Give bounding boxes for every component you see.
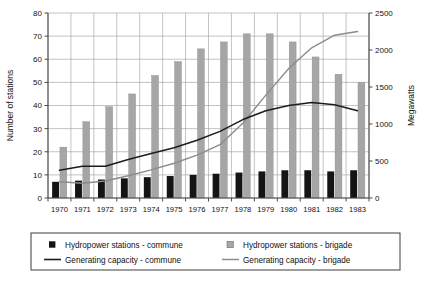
right-tick-label-2500: 2500 <box>375 9 393 18</box>
bar-commune-1980 <box>281 170 288 198</box>
bar-commune-1970 <box>52 182 59 198</box>
bar-brigade-1973 <box>129 94 136 198</box>
x-axis-label-1983: 1983 <box>349 205 366 214</box>
x-axis-label-1970: 1970 <box>51 205 68 214</box>
right-tick-label-500: 500 <box>375 157 389 166</box>
bar-commune-1974 <box>144 177 151 198</box>
legend-group: Hydropower stations - communeHydropower … <box>31 233 400 270</box>
gridlines-group <box>48 13 369 198</box>
right-axis-title: Megawatts <box>406 85 416 126</box>
x-axis-label-1976: 1976 <box>189 205 206 214</box>
bar-brigade-1971 <box>83 122 90 198</box>
legend-label-1: Hydropower stations - brigade <box>243 241 353 250</box>
bar-brigade-1982 <box>335 74 342 198</box>
left-tick-label-0: 0 <box>38 194 43 203</box>
left-tick-label-60: 60 <box>33 55 42 64</box>
bar-commune-1982 <box>327 171 334 198</box>
x-axis-label-1982: 1982 <box>326 205 343 214</box>
bar-commune-1973 <box>121 178 128 198</box>
bar-brigade-1979 <box>266 34 273 198</box>
left-tick-label-70: 70 <box>33 32 42 41</box>
right-tick-label-1000: 1000 <box>375 120 393 129</box>
left-axis-title: Number of stations <box>5 70 15 141</box>
left-tick-label-80: 80 <box>33 9 42 18</box>
bar-brigade-1972 <box>106 107 113 198</box>
right-tick-label-2000: 2000 <box>375 46 393 55</box>
x-axis-label-1975: 1975 <box>166 205 183 214</box>
x-axis-label-1981: 1981 <box>303 205 320 214</box>
bar-brigade-1981 <box>312 57 319 198</box>
left-tick-label-40: 40 <box>33 101 42 110</box>
bar-brigade-1976 <box>197 49 204 198</box>
bar-brigade-1975 <box>175 62 182 198</box>
x-axis-label-1973: 1973 <box>120 205 137 214</box>
x-axis-label-1974: 1974 <box>143 205 160 214</box>
x-axis-label-1980: 1980 <box>280 205 297 214</box>
x-axis-label-1972: 1972 <box>97 205 114 214</box>
x-axis-label-1977: 1977 <box>212 205 229 214</box>
left-tick-label-50: 50 <box>33 78 42 87</box>
legend-label-2: Generating capacity - commune <box>65 256 181 265</box>
legend-marker-square-dark-icon <box>49 241 55 247</box>
bar-commune-1978 <box>236 173 243 198</box>
bar-commune-1976 <box>190 175 197 198</box>
bar-brigade-1970 <box>60 147 67 198</box>
legend-marker-square-grey-icon <box>227 241 233 247</box>
bar-brigade-1977 <box>220 42 227 198</box>
bar-commune-1983 <box>350 170 357 198</box>
bar-brigade-1974 <box>152 75 159 198</box>
bar-commune-1981 <box>304 170 311 198</box>
legend-label-0: Hydropower stations - commune <box>65 241 183 250</box>
x-axis-label-1979: 1979 <box>257 205 274 214</box>
right-tick-label-1500: 1500 <box>375 83 393 92</box>
bar-brigade-1983 <box>358 82 365 198</box>
left-tick-label-20: 20 <box>33 148 42 157</box>
right-tick-label-0: 0 <box>375 194 380 203</box>
bar-commune-1975 <box>167 176 174 198</box>
bar-commune-1977 <box>213 174 220 198</box>
x-axis-label-1971: 1971 <box>74 205 91 214</box>
left-tick-label-10: 10 <box>33 171 42 180</box>
hydropower-stations-chart: 0102030405060708005001000150020002500197… <box>0 0 426 281</box>
left-tick-label-30: 30 <box>33 125 42 134</box>
legend-label-3: Generating capacity - brigade <box>243 256 351 265</box>
bar-commune-1979 <box>258 171 265 198</box>
x-axis-label-1978: 1978 <box>234 205 251 214</box>
chart-container: 0102030405060708005001000150020002500197… <box>0 0 426 281</box>
